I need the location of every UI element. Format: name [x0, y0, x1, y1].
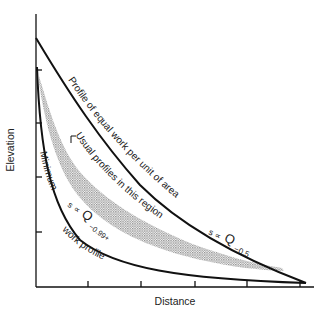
y-axis-label: Elevation [4, 128, 16, 171]
svg-text:−0.5: −0.5 [233, 244, 252, 259]
minimum-work-label-line1: Minimum [38, 150, 60, 191]
x-axis-label: Distance [155, 295, 196, 307]
svg-text:−0.99+: −0.99+ [87, 222, 112, 243]
stream-profile-diagram: Distance Elevation Profile of equal work… [0, 0, 327, 320]
svg-text:∝: ∝ [71, 204, 82, 216]
svg-text:∝: ∝ [214, 230, 224, 242]
